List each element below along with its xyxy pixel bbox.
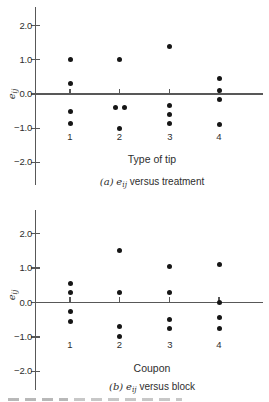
subplot-caption: (a) eij versus treatment [36, 176, 268, 187]
x-axis-title: Coupon [36, 363, 268, 374]
data-point [68, 81, 73, 86]
data-point [122, 105, 127, 110]
subplot-index: (a) [100, 176, 114, 187]
data-point [167, 326, 172, 331]
residual-vs-block-plot: eij Coupon (b) eij versus block 2.01.00.… [0, 201, 269, 402]
subplot-caption: (b) eij versus block [36, 381, 268, 392]
y-tick-label: −2.0 [4, 366, 32, 376]
data-point [167, 103, 172, 108]
caption-text: versus treatment [130, 176, 204, 187]
data-point [117, 248, 122, 253]
data-point [68, 319, 73, 324]
data-point [217, 262, 222, 267]
data-point [68, 309, 73, 314]
y-tick-label: 0.0 [4, 89, 32, 99]
y-axis-subscript: ij [10, 290, 19, 295]
data-point [217, 97, 222, 102]
y-axis-tick [31, 336, 40, 337]
data-point [167, 112, 172, 117]
x-axis-tick [69, 89, 70, 95]
y-axis-line [35, 210, 37, 390]
caption-text: versus block [139, 381, 195, 392]
data-point [217, 88, 222, 93]
data-point [117, 126, 122, 131]
subplot-index: (b) [109, 381, 123, 392]
x-tick-label: 4 [209, 132, 229, 142]
caption-subscript: ij [132, 385, 137, 394]
data-point [117, 290, 122, 295]
x-tick-label: 2 [110, 132, 130, 142]
x-tick-label: 4 [209, 340, 229, 350]
y-axis-tick [31, 59, 40, 60]
data-point [217, 76, 222, 81]
x-tick-label: 1 [60, 340, 80, 350]
data-point [217, 300, 222, 305]
y-axis-tick [31, 233, 40, 234]
data-point [68, 57, 73, 62]
y-tick-label: 2.0 [4, 229, 32, 239]
y-tick-label: 2.0 [4, 21, 32, 31]
x-axis-tick [69, 297, 70, 303]
x-axis-tick [169, 89, 170, 95]
x-axis-tick [119, 89, 120, 95]
x-axis-tick [119, 297, 120, 303]
data-point [117, 57, 122, 62]
x-tick-label: 2 [110, 340, 130, 350]
data-point [117, 324, 122, 329]
y-axis-line [35, 7, 37, 185]
caption-variable-group: eij [126, 381, 137, 392]
y-axis-tick [31, 162, 40, 163]
data-point [113, 105, 118, 110]
y-axis-tick [31, 128, 40, 129]
cropped-caption-fragment [74, 398, 182, 401]
data-point [167, 290, 172, 295]
y-axis-tick [31, 302, 40, 303]
cropped-caption-fragment [8, 398, 68, 401]
y-axis-tick [31, 25, 40, 26]
y-tick-label: −2.0 [4, 157, 32, 167]
data-point [68, 281, 73, 286]
y-axis-tick [31, 93, 40, 94]
y-tick-label: 1.0 [4, 263, 32, 273]
data-point [217, 315, 222, 320]
y-tick-label: 0.0 [4, 298, 32, 308]
y-tick-label: −1.0 [4, 332, 32, 342]
caption-subscript: ij [122, 180, 127, 189]
data-point [167, 317, 172, 322]
y-axis-tick [31, 267, 40, 268]
data-point [68, 109, 73, 114]
x-tick-label: 3 [160, 340, 180, 350]
residual-vs-treatment-plot: eij Type of tip (a) eij versus treatment… [0, 0, 269, 200]
x-tick-label: 1 [60, 132, 80, 142]
data-point [167, 44, 172, 49]
data-point [167, 264, 172, 269]
x-tick-label: 3 [160, 132, 180, 142]
x-axis-tick [169, 297, 170, 303]
data-point [217, 122, 222, 127]
data-point [217, 326, 222, 331]
y-tick-label: −1.0 [4, 123, 32, 133]
data-point [68, 290, 73, 295]
y-axis-tick [31, 371, 40, 372]
data-point [68, 121, 73, 126]
y-tick-label: 1.0 [4, 55, 32, 65]
caption-variable-group: eij [116, 176, 127, 187]
data-point [167, 121, 172, 126]
residual-plots-figure: eij Type of tip (a) eij versus treatment… [0, 0, 269, 402]
x-axis-title: Type of tip [36, 154, 268, 165]
